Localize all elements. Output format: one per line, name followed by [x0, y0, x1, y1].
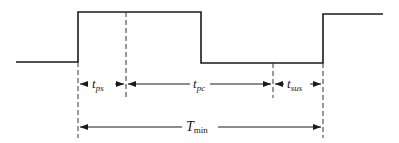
- t-ps-label: tps: [92, 76, 104, 93]
- t-pc-label: tpc: [193, 76, 205, 93]
- t-sus-label: tsus: [287, 76, 303, 93]
- interval-t-ps: tps: [80, 76, 124, 93]
- interval-t-min: Tmin: [80, 119, 321, 135]
- timing-diagram: tps tpc tsus Tmin: [0, 0, 399, 143]
- clock-waveform: [16, 12, 383, 63]
- interval-t-sus: tsus: [275, 76, 321, 93]
- interval-t-pc: tpc: [128, 76, 271, 93]
- t-min-label: Tmin: [186, 119, 208, 135]
